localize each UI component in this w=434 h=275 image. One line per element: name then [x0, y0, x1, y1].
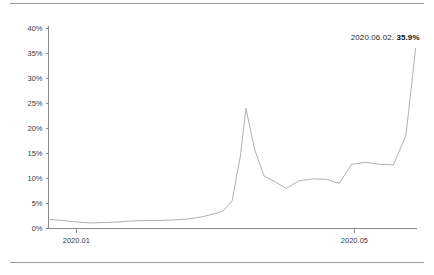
x-axis-tick-labels: 2020.012020.05 [63, 236, 368, 245]
y-tick-label: 40% [27, 24, 42, 33]
annotation-date: 2020.06.02. [351, 33, 397, 42]
x-axis-ticks [76, 229, 354, 233]
y-tick-label: 25% [27, 99, 42, 108]
y-tick-label: 0% [32, 224, 43, 233]
x-tick-label: 2020.01 [63, 236, 90, 245]
y-tick-label: 35% [27, 49, 42, 58]
data-series-line [50, 49, 416, 223]
annotation-value: 35.9% [396, 33, 419, 42]
x-axis-group: 2020.012020.05 [49, 229, 418, 245]
y-axis-tick-labels: 0%5%10%15%20%25%30%35%40% [27, 24, 42, 234]
endpoint-annotation: 2020.06.02. 35.9% [0, 33, 420, 42]
y-tick-label: 15% [27, 149, 42, 158]
x-tick-label: 2020.05 [341, 236, 368, 245]
chart-figure: 0%5%10%15%20%25%30%35%40% 2020.012020.05… [0, 0, 434, 275]
y-tick-label: 5% [32, 199, 43, 208]
y-tick-label: 10% [27, 174, 42, 183]
y-axis-group: 0%5%10%15%20%25%30%35%40% [27, 24, 48, 234]
y-tick-label: 30% [27, 74, 42, 83]
y-tick-label: 20% [27, 124, 42, 133]
